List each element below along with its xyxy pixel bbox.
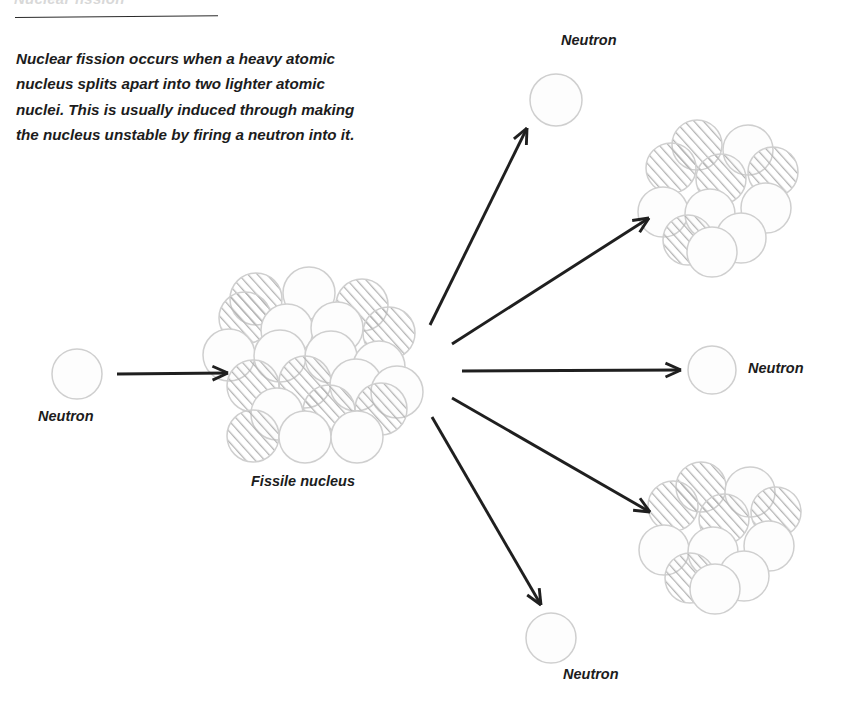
arrow-to-neutron-right-shaft: [462, 370, 681, 371]
arrow-to-fragment-bottom-shaft: [452, 398, 650, 512]
neutron-top: [530, 74, 582, 126]
fragment-nucleus-top-proton-2: [646, 143, 696, 193]
neutron-right: [688, 346, 736, 394]
neutron-circle: [688, 346, 736, 394]
fissile-nucleus-proton-18: [227, 410, 279, 462]
label-neutron-right: Neutron: [748, 360, 804, 376]
label-fissile-nucleus: Fissile nucleus: [251, 473, 355, 489]
arrow-to-fragment-bottom: [452, 398, 650, 512]
arrow-to-fragment-top-shaft: [452, 218, 649, 344]
fragment-nucleus-top-neutron-10: [687, 227, 737, 277]
neutron-circle: [331, 411, 383, 463]
fragment-nucleus-bottom-neutron-10: [690, 564, 740, 614]
arrow-to-neutron-top: [430, 128, 527, 325]
label-neutron-top: Neutron: [561, 32, 617, 48]
arrow-to-neutron-top-shaft: [430, 128, 527, 325]
arrow-to-neutron-top-head-0: [526, 128, 527, 145]
label-neutron-bottom: Neutron: [563, 666, 619, 682]
fragment-nucleus-bottom-proton-2: [648, 481, 698, 531]
neutron-bottom: [526, 613, 576, 663]
arrow-to-neutron-bottom: [432, 417, 541, 605]
neutron-circle: [530, 74, 582, 126]
fissile-nucleus-neutron-20: [331, 411, 383, 463]
neutron-circle: [52, 349, 102, 399]
arrow-to-neutron-right: [462, 363, 681, 377]
fissile-nucleus-neutron-19: [279, 411, 331, 463]
fragment-nucleus-top: [638, 120, 798, 277]
nucleon-layer: [52, 74, 801, 663]
arrow-to-neutron-bottom-shaft: [432, 417, 541, 605]
arrow-to-fragment-top: [452, 218, 649, 344]
proton-circle: [648, 481, 698, 531]
incoming-neutron: [52, 349, 102, 399]
proton-circle: [227, 410, 279, 462]
arrow-incoming-shaft: [117, 373, 228, 374]
neutron-circle: [526, 613, 576, 663]
fission-diagram: [0, 0, 841, 721]
arrow-to-neutron-bottom-head-1: [539, 588, 541, 605]
fissile-nucleus: [203, 267, 423, 463]
label-neutron-incoming: Neutron: [38, 408, 94, 424]
neutron-circle: [687, 227, 737, 277]
fragment-nucleus-bottom: [639, 462, 801, 614]
proton-circle: [646, 143, 696, 193]
neutron-circle: [279, 411, 331, 463]
neutron-circle: [690, 564, 740, 614]
